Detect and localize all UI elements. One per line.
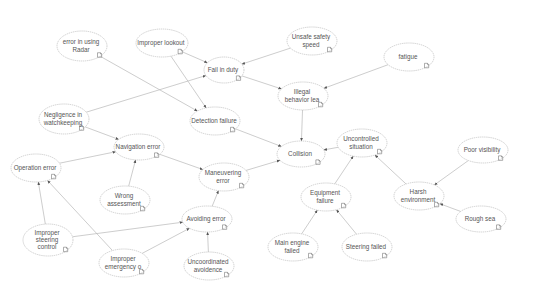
node-label: assessment (107, 200, 141, 207)
node-navigation[interactable]: Navigation error (114, 134, 164, 160)
node-label: failure (316, 197, 334, 204)
edge-steering_failed-to-equipment (336, 210, 356, 235)
node-equipment[interactable]: Equipmentfailure (301, 183, 351, 211)
node-label: Uncontrolled (343, 135, 379, 142)
node-fail-duty[interactable]: Fail in duty (204, 57, 244, 83)
node-radar[interactable]: error in usingRadar (57, 31, 107, 61)
node-label: avoidence (194, 266, 223, 273)
edge-negligence-to-navigation (85, 127, 118, 139)
edge-radar-to-detection (100, 56, 197, 111)
node-label: speed (302, 41, 320, 49)
node-unsafe-speed[interactable]: Unsafe safetyspeed (287, 27, 337, 55)
node-main-engine[interactable]: Main enginefailed (268, 233, 318, 261)
node-label: behavior lea (285, 96, 320, 103)
node-label: Harsh (410, 188, 427, 195)
edge-steering_control-to-avoiding (72, 222, 182, 237)
node-label: Navigation error (116, 143, 161, 151)
node-detection[interactable]: Detection failure (190, 107, 240, 135)
node-collision[interactable]: Collision (277, 141, 325, 167)
node-fatigue[interactable]: fatigue (384, 43, 434, 71)
node-label: Steering failed (346, 243, 387, 251)
nodes-layer: error in usingRadarImproper lookoutUnsaf… (11, 27, 508, 280)
node-label: Fail in duty (208, 66, 239, 74)
edge-rough_sea-to-harsh (440, 204, 461, 212)
edge-steering_control-to-operation (38, 182, 45, 224)
node-lookout[interactable]: Improper lookout (136, 29, 188, 57)
node-label: Collision (288, 150, 312, 157)
node-maneuvering[interactable]: Maneuveringerror (199, 163, 249, 191)
node-operation[interactable]: Operation error (11, 154, 61, 182)
node-label: Operation error (14, 164, 57, 172)
edge-operation-to-navigation (59, 152, 115, 163)
node-label: Avoiding error (186, 215, 225, 223)
edge-lookout-to-fail_duty (182, 52, 207, 63)
causal-diagram-canvas: error in usingRadarImproper lookoutUnsaf… (0, 0, 539, 291)
node-label: Improper lookout (137, 39, 185, 47)
edge-detection-to-collision (236, 129, 282, 147)
node-steering-failed[interactable]: Steering failed (342, 233, 392, 261)
edge-fail_duty-to-illegal (242, 76, 282, 89)
edge-avoiding-to-maneuvering (212, 191, 218, 207)
edge-unsafe_speed-to-fail_duty (242, 48, 291, 64)
node-rough-sea[interactable]: Rough sea (456, 206, 506, 232)
node-label: failed (284, 247, 300, 254)
edges-layer (38, 48, 468, 253)
node-avoiding[interactable]: Avoiding error (182, 206, 232, 232)
node-steering-control[interactable]: Impropersteeringcontrol (23, 224, 73, 256)
edge-navigation-to-maneuvering (160, 154, 203, 169)
node-label: Rough sea (465, 215, 496, 223)
node-uncoord[interactable]: Uncoordinatedavoidence (184, 252, 234, 280)
node-visibility[interactable]: Poor visibility (458, 137, 508, 163)
node-label: control (38, 243, 57, 250)
node-illegal[interactable]: Illegalbehavior lea (278, 82, 328, 110)
edge-fatigue-to-illegal (324, 65, 388, 89)
node-label: error (216, 177, 229, 184)
edge-main_engine-to-equipment (302, 210, 318, 234)
node-label: situation (349, 143, 373, 150)
node-label: watchkeeping (43, 119, 83, 127)
node-label: Radar (72, 46, 89, 53)
node-label: fatigue (399, 53, 418, 61)
node-uncontrolled[interactable]: Uncontrolledsituation (337, 129, 387, 157)
edge-assessment-to-navigation (129, 160, 136, 186)
node-negligence[interactable]: Negligence inwatchkeeping (39, 104, 89, 134)
node-label: Poor visibility (464, 146, 502, 154)
node-emergency[interactable]: Improperemergency o (99, 249, 149, 277)
edge-illegal-to-collision (301, 110, 302, 141)
node-label: emergency o (105, 263, 142, 271)
edge-equipment-to-uncontrolled (335, 156, 354, 184)
edge-maneuvering-to-collision (246, 160, 280, 170)
edge-lookout-to-detection (171, 56, 206, 108)
node-label: Detection failure (191, 117, 237, 124)
edge-uncontrolled-to-collision (324, 147, 338, 150)
node-harsh[interactable]: Harshenvironment (394, 182, 444, 210)
edge-harsh-to-uncontrolled (375, 155, 406, 184)
node-label: Uncoordinated (188, 258, 229, 265)
edge-visibility-to-harsh (434, 161, 468, 185)
edge-uncoord-to-avoiding (208, 232, 209, 252)
edge-emergency-to-avoiding (142, 228, 189, 253)
node-assessment[interactable]: Wrongassessment (100, 186, 150, 214)
node-label: environment (401, 196, 436, 203)
